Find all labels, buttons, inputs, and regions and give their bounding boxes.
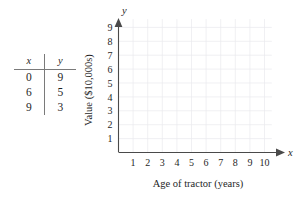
gridlines [119, 19, 272, 152]
cell-x: 6 [14, 85, 44, 100]
coordinate-plot: 12345678910 123456789 y x Age of tractor… [80, 2, 295, 195]
y-axis-arrowhead [115, 18, 123, 27]
x-tick-label: 5 [189, 157, 194, 168]
y-axis-variable-label: y [121, 5, 127, 16]
x-tick-label: 7 [218, 157, 223, 168]
x-tick-label: 9 [247, 157, 252, 168]
table-row: 9 3 [14, 100, 76, 115]
cell-x: 0 [14, 70, 44, 86]
cell-y: 3 [44, 100, 76, 115]
x-tick-label: 1 [131, 157, 136, 168]
x-tick-label: 4 [174, 157, 179, 168]
x-axis-variable-label: x [287, 147, 293, 158]
plot-svg: 12345678910 123456789 y x Age of tractor… [80, 2, 295, 195]
xy-table: x y 0 9 6 5 9 3 [14, 54, 76, 115]
x-tick-labels: 12345678910 [131, 157, 270, 168]
y-tick-label: 5 [108, 78, 113, 89]
table-row: 0 9 [14, 70, 76, 86]
cell-y: 5 [44, 85, 76, 100]
x-axis-arrowhead [276, 149, 285, 157]
y-tick-label: 7 [108, 50, 113, 61]
x-tick-label: 8 [233, 157, 238, 168]
cell-y: 9 [44, 70, 76, 86]
data-table: x y 0 9 6 5 9 3 [14, 54, 76, 115]
table-header-row: x y [14, 54, 76, 70]
y-tick-label: 6 [108, 64, 113, 75]
y-tick-label: 8 [108, 36, 113, 47]
cell-x: 9 [14, 100, 44, 115]
axes [115, 18, 285, 156]
y-tick-label: 1 [108, 133, 113, 144]
table-row: 6 5 [14, 85, 76, 100]
y-tick-label: 4 [108, 92, 113, 103]
y-tick-label: 2 [108, 119, 113, 130]
x-tick-label: 3 [160, 157, 165, 168]
y-tick-label: 3 [108, 105, 113, 116]
x-tick-label: 6 [204, 157, 209, 168]
y-tick-label: 9 [108, 22, 113, 33]
table-header-y: y [44, 54, 76, 70]
table-header-x: x [14, 54, 44, 70]
x-axis-title: Age of tractor (years) [153, 178, 244, 190]
x-tick-label: 2 [145, 157, 150, 168]
x-tick-label: 10 [260, 157, 270, 168]
y-tick-labels: 123456789 [108, 22, 113, 144]
y-axis-title: Value ($10,000s) [83, 54, 95, 126]
